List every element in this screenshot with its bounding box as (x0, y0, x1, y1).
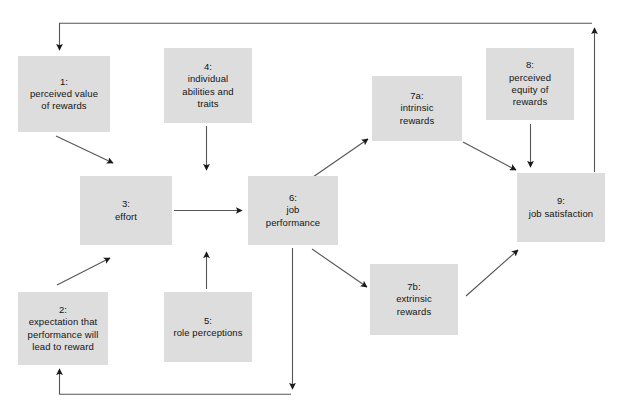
node-effort[interactable]: 3: effort (80, 176, 172, 245)
diagram-canvas: 1: perceived value of rewards 2: expecta… (0, 0, 617, 420)
node-individual-abilities-and-traits[interactable]: 4: individual abilities and traits (164, 48, 252, 123)
edge-job-performance-to-intrinsic-rewards (313, 139, 368, 177)
node-label: 7b: extrinsic rewards (396, 281, 432, 318)
node-label: 5: role perceptions (173, 315, 242, 340)
edge-extrinsic-rewards-to-job-satisfaction (466, 250, 518, 296)
node-expectation-performance-leads-to-reward[interactable]: 2: expectation that performance will lea… (18, 292, 108, 365)
node-job-satisfaction[interactable]: 9: job satisfaction (517, 173, 605, 242)
edge-perceived-value-to-effort (56, 136, 113, 163)
node-extrinsic-rewards[interactable]: 7b: extrinsic rewards (370, 264, 458, 335)
node-label: 2: expectation that performance will lea… (28, 304, 99, 353)
node-label: 3: effort (115, 198, 137, 223)
node-role-perceptions[interactable]: 5: role perceptions (164, 292, 252, 362)
node-intrinsic-rewards[interactable]: 7a: intrinsic rewards (372, 76, 462, 141)
edge-job-performance-to-extrinsic-rewards (312, 249, 367, 287)
node-label: 1: perceived value of rewards (30, 76, 98, 113)
node-label: 4: individual abilities and traits (182, 61, 233, 110)
node-job-performance[interactable]: 6: job performance (248, 176, 338, 245)
node-perceived-equity-of-rewards[interactable]: 8: perceived equity of rewards (486, 48, 574, 120)
node-label: 6: job performance (266, 192, 320, 229)
node-label: 8: perceived equity of rewards (509, 59, 551, 108)
node-perceived-value-of-rewards[interactable]: 1: perceived value of rewards (18, 56, 110, 132)
edge-expectation-to-effort (57, 258, 110, 285)
node-label: 9: job satisfaction (529, 195, 593, 220)
edge-intrinsic-rewards-to-job-satisfaction (463, 142, 516, 170)
node-label: 7a: intrinsic rewards (400, 90, 435, 127)
